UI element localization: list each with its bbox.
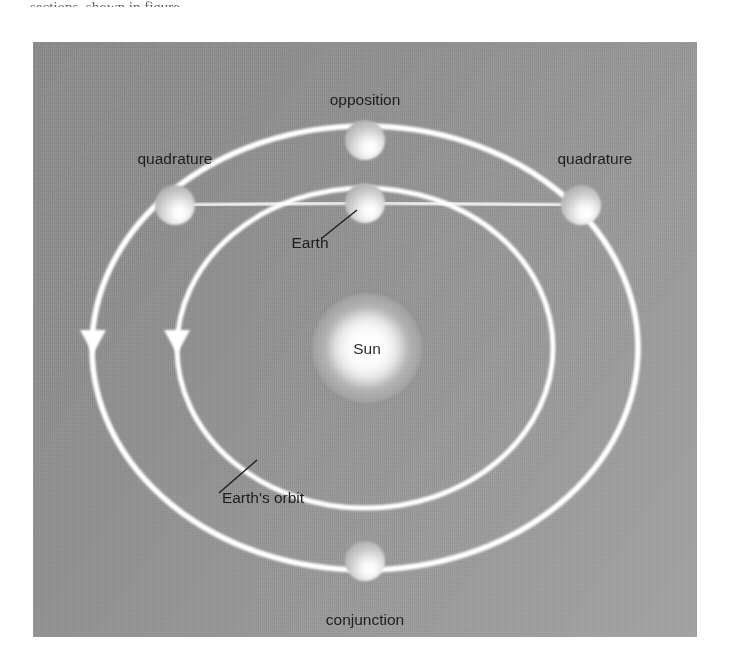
earths-orbit-label: Earth's orbit [222, 489, 305, 506]
quadrature-left-sight-line [175, 203, 365, 205]
figure-page: sections, shown in figure [0, 0, 729, 661]
sun-body-group: Sun [311, 292, 423, 404]
outer-orbit-direction-arrow [80, 330, 106, 354]
quadrature-right-sight-line [365, 203, 581, 205]
quadrature-left-label: quadrature [138, 150, 213, 167]
planetary-configuration-diagram: Sun opposition quadrature quadrature [33, 42, 697, 637]
sun-label: Sun [353, 340, 381, 357]
opposition-planet-sphere [345, 120, 385, 160]
quadrature-right-label: quadrature [558, 150, 633, 167]
orbit-direction-arrows-group [80, 330, 190, 354]
quadrature-left-planet-sphere [155, 185, 195, 225]
conjunction-planet-sphere [345, 541, 385, 581]
earth-label: Earth [291, 234, 328, 251]
opposition-label: opposition [330, 91, 401, 108]
earth-sphere [345, 183, 385, 223]
quadrature-right-planet-sphere [561, 185, 601, 225]
astronomy-figure-panel: Sun opposition quadrature quadrature [33, 42, 697, 637]
conjunction-label: conjunction [326, 611, 404, 628]
page-top-cut-text: sections, shown in figure [30, 0, 590, 7]
inner-orbit-direction-arrow [164, 330, 190, 354]
